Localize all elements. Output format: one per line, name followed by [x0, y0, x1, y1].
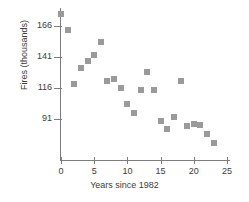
data-point	[151, 87, 157, 93]
x-axis-tick	[161, 157, 162, 164]
data-point	[158, 118, 164, 124]
x-axis-tick	[94, 157, 95, 164]
y-axis-tick	[54, 26, 62, 27]
data-point	[65, 27, 71, 33]
data-point	[178, 78, 184, 84]
data-point	[124, 101, 130, 107]
x-axis-tick-label: 5	[82, 166, 106, 176]
data-point	[98, 39, 104, 45]
y-axis-tick-label: 91	[24, 114, 52, 123]
data-point	[171, 114, 177, 120]
y-axis-label: Fires (thousands)	[19, 0, 29, 115]
scatter-plot-figure: 91116141166 0510152025 Fires (thousands)…	[0, 0, 249, 202]
data-point	[111, 76, 117, 82]
x-axis-tick	[194, 157, 195, 164]
x-axis-tick-label: 0	[49, 166, 73, 176]
x-axis-label: Years since 1982	[0, 180, 249, 190]
data-point	[91, 52, 97, 58]
x-axis-tick	[61, 157, 62, 164]
x-axis-line	[60, 160, 230, 161]
data-point	[78, 65, 84, 71]
x-axis-tick-label: 10	[115, 166, 139, 176]
data-point	[58, 11, 64, 17]
data-point	[191, 121, 197, 127]
data-point	[71, 81, 77, 87]
data-point	[184, 123, 190, 129]
plot-area: 91116141166 0510152025	[0, 0, 249, 202]
y-axis-line	[60, 8, 61, 160]
data-point	[118, 85, 124, 91]
data-point	[138, 87, 144, 93]
y-axis-tick-label-wrap: 91	[20, 114, 52, 124]
data-point	[204, 131, 210, 137]
y-axis-tick	[54, 57, 62, 58]
data-point	[104, 78, 110, 84]
data-point	[164, 126, 170, 132]
data-point	[211, 140, 217, 146]
data-point	[131, 110, 137, 116]
data-point	[144, 69, 150, 75]
y-axis-tick	[54, 119, 62, 120]
x-axis-tick-label: 20	[182, 166, 206, 176]
data-point	[85, 58, 91, 64]
x-axis-tick	[227, 157, 228, 164]
data-point	[197, 122, 203, 128]
x-axis-tick-label: 25	[215, 166, 239, 176]
x-axis-tick	[127, 157, 128, 164]
x-axis-tick-label: 15	[149, 166, 173, 176]
y-axis-tick	[54, 88, 62, 89]
